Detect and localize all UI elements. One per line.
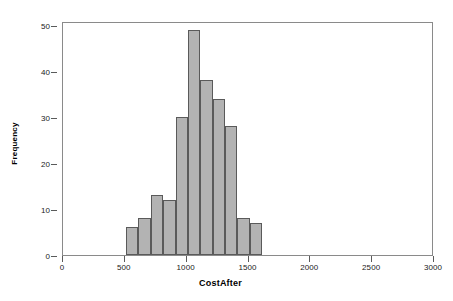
y-tick-mark (51, 164, 57, 165)
x-tick-mark (186, 256, 187, 262)
y-axis-title: Frequency (10, 104, 19, 184)
x-axis-title: CostAfter (0, 278, 453, 288)
histogram-bar (176, 117, 188, 255)
x-tick-mark (433, 256, 434, 262)
x-tick-label: 2000 (300, 263, 318, 272)
y-tick-mark (51, 118, 57, 119)
y-tick-label: 40 (41, 68, 50, 77)
x-tick-label: 2500 (362, 263, 380, 272)
x-tick-label: 500 (117, 263, 131, 272)
y-tick-label: 30 (41, 114, 50, 123)
plot-area (62, 22, 433, 256)
x-tick-label: 1000 (177, 263, 195, 272)
histogram-bar (151, 195, 163, 255)
x-tick-mark (124, 256, 125, 262)
histogram-bar (126, 227, 138, 255)
histogram-bar (213, 99, 225, 255)
bars-layer (63, 23, 432, 255)
histogram-bar (200, 80, 212, 255)
x-tick-label: 1500 (238, 263, 256, 272)
histogram-bar (138, 218, 150, 255)
histogram-bar (163, 200, 175, 255)
x-tick-mark (371, 256, 372, 262)
x-tick-mark (62, 256, 63, 262)
y-tick-mark (51, 26, 57, 27)
histogram-bar (250, 223, 262, 255)
x-tick-label: 0 (60, 263, 65, 272)
x-tick-label: 3000 (424, 263, 442, 272)
histogram-chart: Frequency 01020304050 050010001500200025… (0, 0, 453, 301)
histogram-bar (188, 30, 200, 255)
y-tick-mark (51, 210, 57, 211)
y-tick-label: 10 (41, 206, 50, 215)
y-tick-label: 20 (41, 160, 50, 169)
x-tick-mark (248, 256, 249, 262)
x-axis-title-text: CostAfter (199, 278, 242, 288)
histogram-bar (237, 218, 249, 255)
y-tick-label: 50 (41, 22, 50, 31)
x-axis: 050010001500200025003000 CostAfter (0, 256, 453, 301)
x-tick-mark (309, 256, 310, 262)
y-tick-mark (51, 72, 57, 73)
histogram-bar (225, 126, 237, 255)
